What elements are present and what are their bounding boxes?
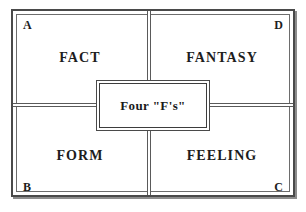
- quadrant-label-form: FORM: [13, 149, 147, 163]
- center-box-inner-border: Four "F's": [99, 83, 207, 128]
- corner-label-b: B: [23, 181, 31, 193]
- quadrant-label-fantasy: FANTASY: [151, 51, 293, 65]
- corner-label-d: D: [274, 19, 283, 31]
- frame-right-shadow: [295, 11, 297, 199]
- four-fs-diagram: A D B C FACT FANTASY FORM FEELING Four "…: [0, 0, 306, 212]
- corner-label-c: C: [274, 181, 283, 193]
- quadrant-label-feeling: FEELING: [151, 149, 293, 163]
- corner-label-a: A: [23, 19, 32, 31]
- frame-bottom-shadow: [13, 197, 296, 199]
- center-box: Four "F's": [96, 80, 210, 131]
- center-box-label: Four "F's": [120, 99, 186, 112]
- quadrant-label-fact: FACT: [13, 51, 147, 65]
